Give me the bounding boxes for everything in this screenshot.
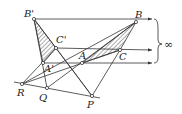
label-c: C [119,52,127,62]
label-p: P [87,100,94,110]
label-r: R [17,88,25,98]
hatched-triangle-left [34,19,56,63]
label-c-prime: C' [56,35,66,45]
desargues-diagram: B' B C' C A' A R Q P ∞ [0,0,182,114]
infinity-label: ∞ [164,39,173,50]
label-a: A [79,51,86,61]
label-b: B [135,10,142,20]
label-b-prime: B' [24,9,34,19]
label-q: Q [39,93,47,103]
label-a-prime: A' [44,64,54,74]
